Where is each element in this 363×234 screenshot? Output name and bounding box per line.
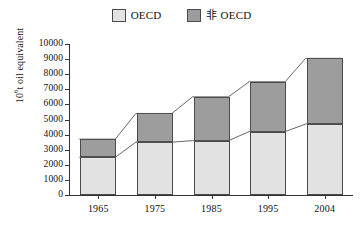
y-axis-tick xyxy=(65,150,70,151)
chart-legend: OECD 非 OECD xyxy=(0,9,363,22)
y-axis-tick xyxy=(65,59,70,60)
y-axis-tick-label: 2000 xyxy=(44,160,63,170)
y-axis-tick xyxy=(65,135,70,136)
y-axis-tick-label: 6000 xyxy=(44,100,63,110)
x-axis-tick-label: 1985 xyxy=(201,204,222,214)
x-axis-tick xyxy=(155,195,156,199)
y-axis-title-exponent: 6 xyxy=(12,89,20,93)
bar-segment-non-oecd xyxy=(80,139,116,157)
bar-segment-oecd xyxy=(307,124,343,195)
bar-segment-oecd xyxy=(250,132,286,195)
x-axis-tick xyxy=(98,195,99,199)
y-axis-tick xyxy=(65,180,70,181)
y-axis-tick xyxy=(65,120,70,121)
bar-group xyxy=(194,44,230,195)
bar-segment-non-oecd xyxy=(137,113,173,142)
oecd-swatch-icon xyxy=(112,9,126,22)
bar-group xyxy=(80,44,116,195)
legend-entry-oecd: OECD xyxy=(112,9,162,22)
plot-area: 1000090008000700060005000400030002000100… xyxy=(69,44,353,196)
bar-segment-oecd xyxy=(194,141,230,195)
bar-group xyxy=(137,44,173,195)
bar-segment-oecd xyxy=(80,157,116,195)
bar-group xyxy=(250,44,286,195)
x-axis-tick-label: 2004 xyxy=(314,204,335,214)
legend-label-non-oecd: 非 OECD xyxy=(206,9,251,22)
y-axis-tick xyxy=(65,104,70,105)
bar-segment-oecd xyxy=(137,142,173,195)
y-axis-tick xyxy=(65,44,70,45)
legend-label-oecd: OECD xyxy=(131,9,162,22)
bar-group xyxy=(307,44,343,195)
y-axis-tick xyxy=(65,89,70,90)
y-axis-title: 106t oil equivalent xyxy=(14,1,25,131)
y-axis-tick-label: 10000 xyxy=(39,39,63,49)
y-axis-tick-label: 7000 xyxy=(44,85,63,95)
non-oecd-swatch-icon xyxy=(187,9,201,22)
x-axis-tick xyxy=(212,195,213,199)
y-axis-tick-label: 0 xyxy=(58,190,63,200)
x-axis-tick-label: 1975 xyxy=(144,204,165,214)
y-axis-tick xyxy=(65,195,70,196)
bar-segment-non-oecd xyxy=(250,82,286,132)
bar-segment-non-oecd xyxy=(194,97,230,141)
y-axis-tick xyxy=(65,74,70,75)
x-axis-tick-label: 1995 xyxy=(258,204,279,214)
x-axis-tick-label: 1965 xyxy=(88,204,109,214)
y-axis-tick-label: 4000 xyxy=(44,130,63,140)
bar-segment-non-oecd xyxy=(307,58,343,124)
x-axis-tick xyxy=(268,195,269,199)
y-axis-title-base: 10 xyxy=(14,93,25,103)
x-axis-tick xyxy=(325,195,326,199)
y-axis-tick-label: 9000 xyxy=(44,54,63,64)
y-axis-tick xyxy=(65,165,70,166)
y-axis-tick-label: 1000 xyxy=(44,175,63,185)
y-axis-title-rest: t oil equivalent xyxy=(14,28,25,90)
legend-entry-non-oecd: 非 OECD xyxy=(187,9,251,22)
stacked-bar-chart: OECD 非 OECD 106t oil equivalent 10000900… xyxy=(0,0,363,234)
y-axis-tick-label: 3000 xyxy=(44,145,63,155)
y-axis-tick-label: 8000 xyxy=(44,69,63,79)
y-axis-tick-label: 5000 xyxy=(44,115,63,125)
